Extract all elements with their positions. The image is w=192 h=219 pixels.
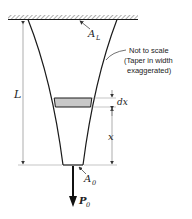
svg-text:exaggerated): exaggerated) [127, 66, 172, 75]
svg-text:0: 0 [86, 201, 90, 209]
fixed-support [8, 15, 138, 20]
tapered-bar [28, 20, 117, 166]
x-dimension: x [84, 109, 117, 165]
length-label: L [13, 88, 21, 101]
svg-text:0: 0 [92, 179, 96, 187]
scale-note: Not to scale (Taper in width exaggerated… [106, 46, 173, 75]
svg-text:Not to scale: Not to scale [129, 46, 169, 55]
dx-label: dx [117, 97, 128, 107]
bottom-area-label: A 0 [79, 167, 96, 187]
tapered-bar-diagram: L dx x A L Not to scale (Taper in width … [0, 0, 192, 219]
svg-text:(Taper in width: (Taper in width [124, 56, 173, 65]
svg-text:A: A [83, 173, 91, 184]
svg-text:A: A [87, 28, 95, 39]
top-area-label: A L [80, 21, 100, 42]
dx-dimension: dx [91, 90, 128, 116]
x-label: x [108, 131, 114, 142]
svg-text:L: L [95, 34, 100, 42]
differential-element [54, 98, 92, 107]
